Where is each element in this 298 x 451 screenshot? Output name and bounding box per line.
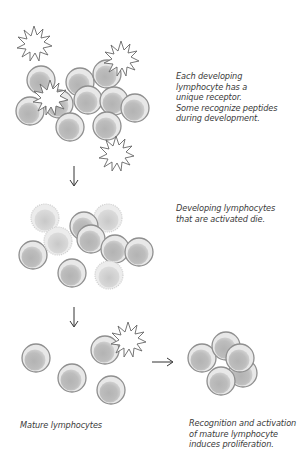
arrow-down-icon [70,166,78,186]
caption-line: Developing lymphocytes [176,203,275,214]
stage2-caption: Developing lymphocytes that are activate… [176,203,275,224]
caption-line: Each developing [176,71,277,82]
caption-line: Mature lymphocytes [20,420,102,431]
caption-line: lymphocyte has a [176,82,277,93]
antigen-icon [104,41,139,76]
antigen-icon [99,136,134,171]
caption-line: Recognition and activation [189,418,296,429]
caption-line: unique receptor. [176,92,277,103]
mature-lymphocytes [22,336,125,404]
caption-line: during development. [176,113,277,124]
lymphocyte-selection-diagram: Each developing lymphocyte has a unique … [0,0,298,451]
arrow-right-icon [152,358,173,366]
caption-line: Some recognize peptides [176,103,277,114]
proliferation-caption: Recognition and activation of mature lym… [189,418,296,450]
stage1-caption: Each developing lymphocyte has a unique … [176,71,277,124]
caption-line: induces proliferation. [189,439,296,450]
caption-line: that are activated die. [176,214,275,225]
proliferating-cell-cluster [188,332,257,395]
caption-line: of mature lymphocyte [189,429,296,440]
diagram-illustration [0,0,298,451]
antigen-icon [17,26,52,61]
antigen-icon [111,322,146,357]
stage2-cell-cluster [19,204,153,289]
arrow-down-icon [70,307,78,327]
mature-lymphocytes-caption: Mature lymphocytes [20,420,102,431]
